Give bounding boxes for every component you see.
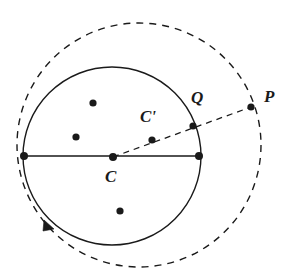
point-p bbox=[247, 103, 254, 110]
geometry-figure: C C' Q P bbox=[0, 0, 292, 278]
label-c: C bbox=[105, 168, 116, 185]
interior-dot-left bbox=[72, 133, 79, 140]
interior-dot-upper bbox=[89, 99, 96, 106]
interior-dot-lower bbox=[116, 207, 123, 214]
dashed-ray-c-to-p bbox=[113, 107, 251, 157]
point-q bbox=[189, 122, 196, 129]
dashed-circle bbox=[17, 23, 261, 267]
point-c bbox=[109, 153, 117, 161]
label-p: P bbox=[264, 88, 274, 105]
label-c-prime: C' bbox=[140, 108, 156, 125]
point-diameter-left bbox=[20, 152, 28, 160]
point-c-prime bbox=[148, 136, 155, 143]
geometry-canvas bbox=[0, 0, 292, 278]
point-diameter-right bbox=[195, 152, 203, 160]
label-q: Q bbox=[191, 89, 203, 106]
